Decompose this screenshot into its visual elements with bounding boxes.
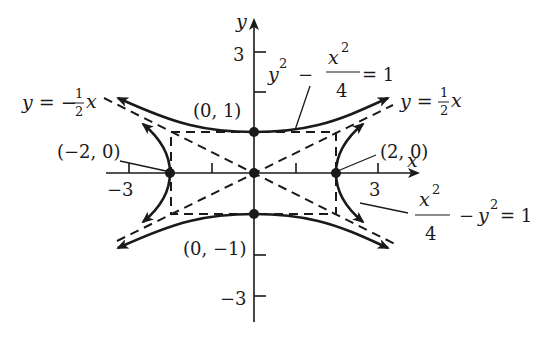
vcurve-y-exp: 2 (279, 56, 287, 71)
asymptote-label-positive: y = 1 2 x (399, 85, 462, 118)
vertex-2-0 (331, 168, 341, 178)
hcurve-y-exp: 2 (490, 197, 498, 212)
asym-neg-num: 1 (75, 86, 83, 101)
vcurve-rhs: = 1 (362, 64, 394, 85)
hcurve-den: 4 (425, 223, 436, 244)
vcurve-den: 4 (336, 80, 347, 101)
hcurve-y: y (477, 204, 489, 226)
asymptote-label-negative: y = − 1 2 x (21, 86, 97, 119)
vcurve-y: y (267, 63, 279, 85)
point-label-0-1: (0, 1) (193, 100, 241, 121)
vcurve-x-exp: 2 (341, 40, 349, 55)
vertex-0-1 (249, 127, 259, 137)
lower-branch (254, 214, 388, 248)
x-tick-label-3: 3 (369, 179, 380, 200)
asym-neg-lhs: y = (21, 91, 61, 113)
left-branch (143, 124, 170, 173)
point-label-0-neg1: (0, −1) (183, 238, 246, 259)
hcurve-x: x (419, 188, 430, 210)
left-branch (143, 173, 170, 222)
asym-pos-den: 2 (440, 103, 448, 118)
hyperbola-diagram: y x 3 −3 −3 3 (0, 1) (0, −1) (−2, 0) (2,… (0, 0, 549, 337)
y-tick-label-neg3: −3 (220, 288, 247, 309)
hcurve-x-exp: 2 (432, 182, 440, 197)
asym-neg-den: 2 (75, 104, 83, 119)
vcurve-x: x (328, 46, 339, 68)
leader-right-vertex (340, 155, 376, 170)
leader-upper-curve (295, 86, 310, 130)
x-tick-label-neg3: −3 (107, 179, 134, 200)
vcurve-minus: − (298, 64, 313, 85)
point-label-2-0: (2, 0) (380, 141, 428, 162)
right-branch (336, 173, 363, 222)
curve-label-horizontal: x 2 4 − y 2 = 1 (415, 182, 532, 244)
upper-branch (254, 98, 388, 132)
hcurve-rhs: = 1 (500, 205, 532, 226)
y-tick-label-3: 3 (233, 44, 244, 65)
asym-pos-lhs: y = (399, 90, 433, 112)
vertex-0-neg1 (249, 209, 259, 219)
origin-point (249, 168, 259, 178)
svg-text:y = −: y = − (21, 91, 77, 113)
leader-right-curve (360, 203, 408, 213)
hcurve-minus: − (459, 205, 474, 226)
curve-label-vertical: y 2 − x 2 4 = 1 (267, 40, 394, 101)
asym-pos-var: x (451, 89, 462, 111)
y-axis-label: y (235, 10, 247, 32)
point-label-neg2-0: (−2, 0) (57, 141, 120, 162)
leader-left-vertex (120, 161, 166, 171)
vertex-neg2-0 (165, 168, 175, 178)
asym-neg-var: x (86, 90, 97, 112)
asym-pos-num: 1 (440, 85, 448, 100)
